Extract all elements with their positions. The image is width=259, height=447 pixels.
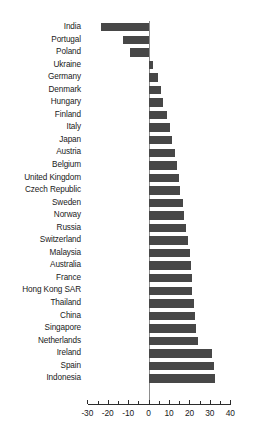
bar-row: Singapore (0, 322, 259, 335)
bar-row: Belgium (0, 159, 259, 172)
bar-chart: IndiaPortugalPolandUkraineGermanyDenmark… (0, 0, 259, 447)
category-label: Poland (56, 46, 81, 59)
category-label: Belgium (52, 159, 81, 172)
x-axis-minor-tick (179, 401, 180, 405)
bar-row: Italy (0, 121, 259, 134)
bar (149, 73, 158, 81)
bar (149, 362, 215, 370)
x-axis-major-tick (108, 400, 109, 405)
category-label: Russia (57, 222, 81, 235)
bar-row: Ukraine (0, 59, 259, 72)
bar (149, 249, 190, 257)
bar-row: Portugal (0, 34, 259, 47)
bar-row: Germany (0, 71, 259, 84)
category-label: Thailand (50, 297, 81, 310)
category-label: Australia (50, 259, 81, 272)
x-axis-major-tick (169, 400, 170, 405)
category-label: Czech Republic (25, 184, 81, 197)
bar-row: Denmark (0, 84, 259, 97)
bar (149, 224, 186, 232)
x-axis-tick-label: 40 (215, 408, 245, 418)
bar (149, 174, 180, 182)
bar (149, 61, 154, 69)
bar-row: France (0, 272, 259, 285)
category-label: Norway (54, 209, 81, 222)
category-label: Finland (55, 109, 81, 122)
bar (149, 86, 161, 94)
bar (149, 324, 196, 332)
category-label: Japan (59, 134, 81, 147)
category-label: Netherlands (38, 335, 81, 348)
bar (149, 186, 181, 194)
bar-rows: IndiaPortugalPolandUkraineGermanyDenmark… (0, 21, 259, 385)
category-label: France (56, 272, 81, 285)
bar (149, 199, 184, 207)
x-axis-minor-tick (220, 401, 221, 405)
bar (149, 349, 213, 357)
bar (149, 123, 170, 131)
bar-row: Australia (0, 259, 259, 272)
x-axis-major-tick (210, 400, 211, 405)
bar (149, 312, 195, 320)
category-label: Ukraine (53, 59, 81, 72)
bar-row: Poland (0, 46, 259, 59)
x-axis-minor-tick (159, 401, 160, 405)
x-axis-major-tick (189, 400, 190, 405)
bar (149, 211, 185, 219)
category-label: Portugal (51, 34, 81, 47)
x-axis-minor-tick (138, 401, 139, 405)
bar (149, 111, 168, 119)
x-axis-line (88, 404, 231, 405)
bar (130, 48, 149, 56)
bar-row: Japan (0, 134, 259, 147)
category-label: China (60, 310, 81, 323)
bar (149, 136, 172, 144)
bar (123, 36, 148, 44)
bar-row: Norway (0, 209, 259, 222)
x-axis-major-tick (128, 400, 129, 405)
category-label: Singapore (45, 322, 81, 335)
bar-row: Malaysia (0, 247, 259, 260)
bar-row: Finland (0, 109, 259, 122)
category-label: Germany (48, 71, 81, 84)
x-axis-minor-tick (118, 401, 119, 405)
bar (149, 337, 198, 345)
bar-row: Thailand (0, 297, 259, 310)
bar (149, 374, 216, 382)
category-label: Italy (66, 121, 81, 134)
bar-row: Ireland (0, 347, 259, 360)
bar (149, 299, 194, 307)
x-axis: -30-20-10010203040 (0, 404, 259, 444)
category-label: Hungary (51, 96, 81, 109)
category-label: Indonesia (46, 372, 81, 385)
bar-row: Indonesia (0, 372, 259, 385)
category-label: Switzerland (40, 234, 81, 247)
bar-row: India (0, 21, 259, 34)
bar (149, 149, 175, 157)
category-label: India (64, 21, 81, 34)
bar (149, 287, 193, 295)
bar-row: China (0, 310, 259, 323)
bar-row: Czech Republic (0, 184, 259, 197)
category-label: Spain (61, 360, 81, 373)
x-axis-major-tick (230, 400, 231, 405)
category-label: Sweden (52, 197, 81, 210)
category-label: Malaysia (49, 247, 81, 260)
bar (101, 23, 149, 31)
category-label: Ireland (57, 347, 81, 360)
bar-row: Switzerland (0, 234, 259, 247)
bar-row: Sweden (0, 197, 259, 210)
x-axis-minor-tick (200, 401, 201, 405)
x-axis-major-tick (149, 400, 150, 405)
bar (149, 274, 193, 282)
bar-row: Russia (0, 222, 259, 235)
category-label: United Kingdom (24, 172, 81, 185)
x-axis-minor-tick (98, 401, 99, 405)
category-label: Austria (56, 146, 81, 159)
bar-row: United Kingdom (0, 172, 259, 185)
bar-row: Spain (0, 360, 259, 373)
bar-row: Hong Kong SAR (0, 284, 259, 297)
x-axis-major-tick (87, 400, 88, 405)
bar-row: Austria (0, 146, 259, 159)
bar (149, 98, 164, 106)
